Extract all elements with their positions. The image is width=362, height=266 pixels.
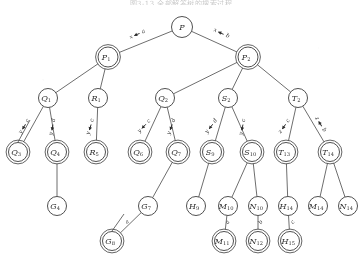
- node-label: P: [178, 23, 185, 32]
- tree-edge: [96, 107, 97, 140]
- edge-assignment-label: a: [224, 219, 231, 225]
- tree-edge: [289, 107, 296, 140]
- assignment-arrowhead-icon: [281, 126, 286, 131]
- edge-assignment-label: c: [289, 218, 296, 225]
- tree-node-t13[interactable]: T13: [274, 140, 298, 164]
- tree-edge: [100, 69, 105, 89]
- tree-node-t14[interactable]: T14: [318, 140, 342, 164]
- edge-label-variable: y: [84, 130, 92, 137]
- tree-node-n12[interactable]: N12: [246, 229, 270, 253]
- edge-assignment-label: xa: [128, 28, 146, 40]
- edge-label-value: a: [140, 28, 145, 35]
- edge-assignment-label: zb: [314, 114, 329, 133]
- assignment-arrowhead-icon: [133, 33, 137, 38]
- edge-label-value: a: [124, 218, 130, 225]
- edge-label-value: d: [50, 118, 57, 123]
- tree-node-m11[interactable]: M11: [212, 229, 236, 253]
- tree-edge: [232, 107, 247, 142]
- tree-node-q1[interactable]: Q1: [39, 89, 58, 108]
- tree-edge: [320, 163, 327, 196]
- edge-label-variable: y: [203, 127, 212, 135]
- tree-edge: [286, 164, 287, 197]
- edge-assignment-label: yc: [237, 117, 247, 137]
- edge-label-value: c: [24, 117, 31, 124]
- tree-edge: [120, 213, 141, 233]
- edge-assignment-label: yc: [135, 117, 153, 135]
- tree-node-q3[interactable]: Q3: [6, 140, 30, 164]
- tree-edge: [215, 107, 225, 141]
- edge-assignment-label: a: [124, 218, 130, 225]
- tree-node-s9[interactable]: S9: [200, 140, 224, 164]
- tree-node-p2[interactable]: P2: [236, 45, 261, 70]
- tree-edge: [334, 163, 345, 197]
- tree-node-r1[interactable]: R1: [89, 89, 108, 108]
- figure-container: 图3-13 全部解答树的搜索过程 PP1P2Q1R1Q2S2T2Q3Q4R5Q6…: [0, 0, 362, 266]
- tree-edge-stub: [112, 214, 124, 231]
- edge-label-value: d: [170, 117, 177, 123]
- assignment-arrowhead-icon: [317, 120, 322, 125]
- tree-edge: [257, 65, 290, 92]
- tree-node-q7[interactable]: Q7: [166, 140, 190, 164]
- tree-node-n10[interactable]: N10: [248, 197, 267, 216]
- tree-node-h14[interactable]: H14: [278, 197, 297, 216]
- edge-label-variable: z: [314, 114, 321, 121]
- edge-labels-layer: xaxbycydycycydydyczczbaabc: [16, 27, 328, 226]
- tree-node-p1[interactable]: P1: [96, 45, 121, 70]
- tree-edge: [199, 163, 209, 197]
- tree-node-q6[interactable]: Q6: [128, 140, 152, 164]
- edge-label-value: a: [224, 219, 231, 225]
- nodes-layer: PP1P2Q1R1Q2S2T2Q3Q4R5Q6Q7S9S10T13T14G4G7…: [6, 17, 357, 253]
- edge-label-variable: y: [165, 130, 173, 137]
- edge-assignment-label: zc: [276, 117, 291, 136]
- edge-label-value: b: [225, 32, 231, 39]
- edge-assignment-label: yd: [165, 117, 178, 137]
- edge-label-value: c: [240, 117, 247, 122]
- tree-node-h9[interactable]: H9: [187, 197, 206, 216]
- tree-edge: [303, 106, 324, 142]
- tree-node-g8[interactable]: G8: [100, 229, 124, 253]
- tree-node-p[interactable]: P: [172, 17, 193, 38]
- tree-edge: [24, 106, 44, 141]
- tree-edge: [56, 64, 98, 93]
- assignment-arrowhead-icon: [217, 30, 221, 35]
- tree-edge: [153, 162, 173, 197]
- tree-node-m10[interactable]: M10: [218, 197, 238, 216]
- edge-label-value: c: [284, 117, 291, 124]
- edge-label-value: c: [145, 117, 152, 124]
- edge-label-value: c: [88, 117, 95, 122]
- assignment-arrowhead-icon: [88, 127, 92, 131]
- tree-edge: [253, 164, 257, 197]
- tree-node-t2[interactable]: T2: [289, 89, 308, 108]
- tree-node-n14[interactable]: N14: [338, 197, 357, 216]
- tree-node-g7[interactable]: G7: [139, 197, 158, 216]
- tree-node-h15[interactable]: H15: [278, 229, 302, 253]
- edge-assignment-label: yd: [203, 117, 220, 136]
- tree-edge: [145, 107, 161, 142]
- tree-node-q4[interactable]: Q4: [45, 140, 69, 164]
- tree-node-g4[interactable]: G4: [48, 197, 67, 216]
- edge-label-variable: x: [213, 27, 219, 34]
- tree-edge: [167, 107, 175, 140]
- edge-assignment-label: yc: [84, 117, 96, 137]
- tree-edge: [232, 68, 242, 89]
- edge-assignment-label: yd: [47, 118, 57, 137]
- tree-node-r5[interactable]: R5: [84, 140, 108, 164]
- search-tree-diagram: PP1P2Q1R1Q2S2T2Q3Q4R5Q6Q7S9S10T13T14G4G7…: [0, 0, 362, 266]
- edge-label-variable: z: [276, 129, 283, 136]
- edge-assignment-label: xb: [213, 27, 231, 40]
- edge-label-value: b: [321, 126, 328, 133]
- tree-node-s2[interactable]: S2: [219, 89, 238, 108]
- tree-node-s10[interactable]: S10: [240, 140, 264, 164]
- edge-label-variable: x: [128, 33, 134, 40]
- tree-node-q2[interactable]: Q2: [156, 89, 175, 108]
- edge-label-value: d: [211, 117, 218, 124]
- edge-label-value: c: [289, 218, 296, 225]
- edge-assignment-label: yc: [16, 117, 32, 136]
- tree-edge: [232, 163, 247, 198]
- tree-node-m14[interactable]: M14: [308, 197, 328, 216]
